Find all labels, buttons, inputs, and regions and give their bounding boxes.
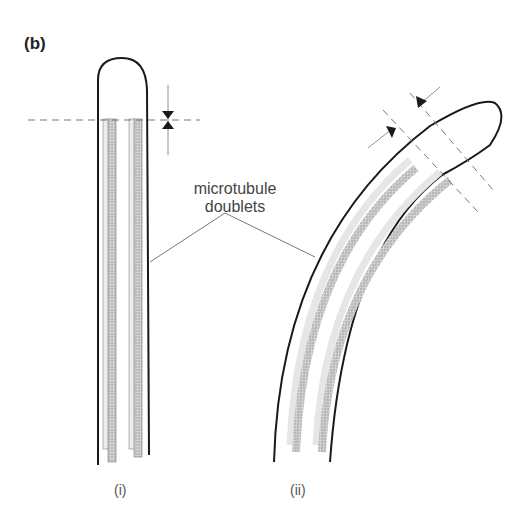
straight-flagellum <box>28 58 200 465</box>
microtubule-doublet-ii-left <box>290 160 410 445</box>
microtubule-doublet-i-right <box>129 119 142 457</box>
microtubule-doublets-label: microtubule doublets <box>180 180 290 216</box>
panel-label: (b) <box>24 34 46 54</box>
microtubule-doublet-ii-right <box>316 172 440 445</box>
subfigure-ii-label: (ii) <box>290 482 306 498</box>
flagellum-membrane-ii <box>274 102 501 462</box>
dashed-line-ii-inner <box>410 93 493 190</box>
callout-leader-lines <box>150 213 315 262</box>
microtubule-doublet-i-left <box>103 119 116 462</box>
diagram-graphics <box>0 0 525 517</box>
subfigure-i-label: (i) <box>114 482 126 498</box>
arrow-ii-left-icon <box>386 126 396 138</box>
callout-line-2: doublets <box>180 198 290 216</box>
callout-line-1: microtubule <box>180 180 290 198</box>
bent-flagellum <box>274 87 501 462</box>
arrow-up-icon <box>162 121 174 129</box>
arrow-down-icon <box>162 111 174 119</box>
flagellum-diagram: (b) microtubule doublets (i) (ii) <box>0 0 525 517</box>
